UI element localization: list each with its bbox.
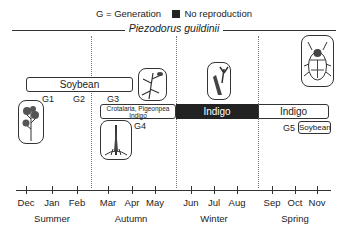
tick-aug — [237, 186, 238, 194]
bar-label: Soybean — [299, 123, 331, 132]
pigeonpea-plant-icon — [138, 68, 167, 101]
tick-may — [155, 186, 156, 194]
season-divider-summer-autumn — [91, 36, 92, 188]
bar-crotalaria-pigeonpea-indigo: Crotalaria, Pigeonpea Indigo — [100, 104, 176, 119]
time-axis — [16, 190, 331, 191]
bar-label: Indigo — [280, 106, 307, 117]
generation-g1: G1 — [42, 94, 54, 104]
soybean-plant-icon — [18, 100, 44, 144]
legend-no-reproduction: No reproduction — [184, 8, 252, 19]
title-text: Piezodorus guildinii — [125, 22, 223, 34]
month-label: Feb — [62, 197, 92, 208]
tick-dec — [26, 186, 27, 194]
legend: G = Generation No reproduction — [0, 8, 348, 19]
season-summer: Summer — [22, 213, 82, 224]
stink-bug-icon — [301, 35, 334, 87]
bar-label: Indigo — [203, 106, 230, 117]
crotalaria-plant-icon — [100, 120, 132, 160]
bar-label: Soybean — [60, 79, 99, 90]
legend-generation: G = Generation — [96, 8, 161, 19]
bar-soybean-spring: Soybean — [298, 121, 331, 134]
bar-indigo-spring: Indigo — [258, 104, 329, 119]
month-label: May — [140, 197, 170, 208]
tick-jan — [52, 186, 53, 194]
tick-sep — [272, 186, 273, 194]
season-spring: Spring — [265, 213, 325, 224]
month-label: Nov — [302, 197, 332, 208]
generation-g3: G3 — [107, 94, 119, 104]
generation-g2: G2 — [73, 94, 85, 104]
tick-jun — [191, 186, 192, 194]
tick-feb — [77, 186, 78, 194]
bar-soybean-summer: Soybean — [26, 77, 133, 92]
season-autumn: Autumn — [101, 213, 161, 224]
generation-g5: G5 — [283, 123, 295, 133]
tick-jul — [214, 186, 215, 194]
generation-g4: G4 — [134, 121, 146, 131]
tick-nov — [317, 186, 318, 194]
tick-oct — [295, 186, 296, 194]
bar-label-line2: Indigo — [101, 113, 175, 120]
tick-mar — [108, 186, 109, 194]
no-reproduction-swatch — [172, 10, 180, 18]
diagram-title: Piezodorus guildinii — [0, 22, 348, 34]
month-label: Aug — [222, 197, 252, 208]
tick-apr — [132, 186, 133, 194]
season-winter: Winter — [184, 213, 244, 224]
bar-indigo-no-reproduction: Indigo — [176, 104, 258, 119]
indigo-plant-icon — [207, 62, 231, 100]
